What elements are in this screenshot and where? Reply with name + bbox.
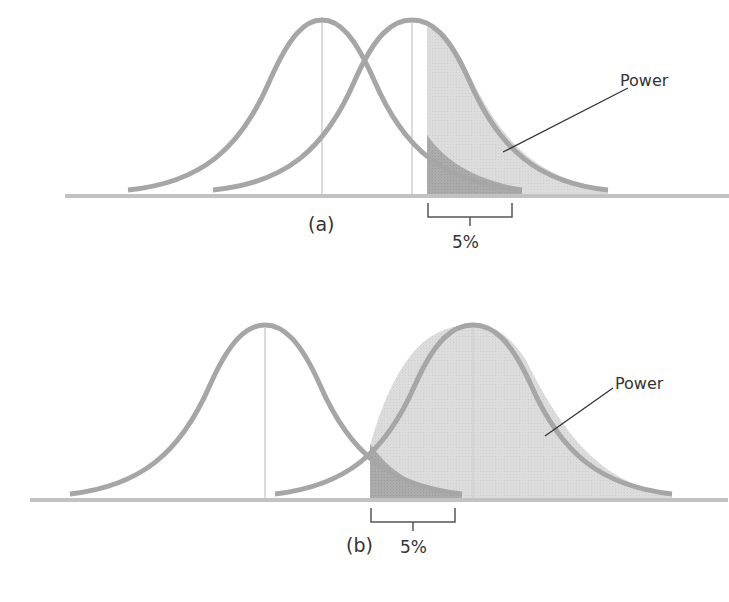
power-leader-b	[545, 388, 613, 436]
power-area-b	[370, 325, 672, 499]
power-annotation-a: Power	[620, 71, 669, 90]
power-diagram: 5% (a) Power (b) 5% Power	[0, 0, 729, 602]
panel-label-a: (a)	[308, 213, 334, 235]
panel-b: (b) 5% Power	[30, 325, 728, 557]
panel-a: 5% (a) Power	[65, 20, 729, 252]
power-leader-a	[503, 88, 628, 152]
alpha-label-a: 5%	[452, 232, 479, 252]
alpha-bracket-b	[371, 508, 455, 531]
alt-distribution-curve-a	[213, 20, 608, 190]
alpha-bracket-a	[428, 203, 512, 226]
alpha-label-b: 5%	[400, 537, 427, 557]
panel-label-b: (b)	[346, 534, 373, 556]
power-annotation-b: Power	[615, 374, 664, 393]
